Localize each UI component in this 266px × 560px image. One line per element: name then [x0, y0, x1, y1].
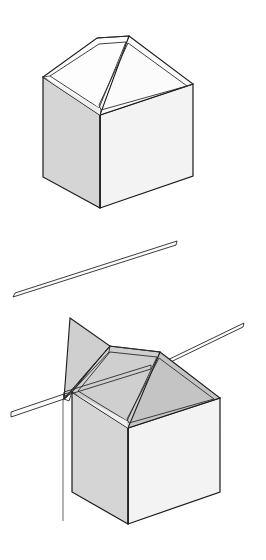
slab-upper-left [13, 241, 177, 297]
figure-bottom-group [11, 241, 244, 524]
slab-left-stub [11, 394, 64, 417]
figure-sheet: Intact gabled house volume House volume … [0, 0, 266, 560]
figure-top-group [43, 36, 193, 208]
figure-top [0, 0, 266, 560]
